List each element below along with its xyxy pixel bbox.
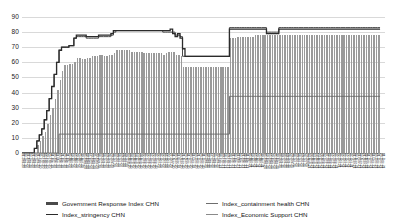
legend-marker-containment-health xyxy=(206,203,218,204)
legend-item-government-response-index[interactable]: Government Response Index CHN xyxy=(46,200,206,207)
chart-container: 0102030405060708090 01-Jan-2006-Jan-2011… xyxy=(0,0,393,224)
line-series-layer xyxy=(22,17,385,153)
line-index-economic-support-chn xyxy=(22,96,380,153)
plot-area xyxy=(22,17,385,153)
y-tick-label-80: 80 xyxy=(12,29,19,36)
legend-marker-economic-support xyxy=(206,214,218,215)
y-tick-label-60: 60 xyxy=(12,59,19,66)
legend-marker-government-response-index xyxy=(46,202,58,205)
legend-item-containment-health[interactable]: Index_containment health CHN xyxy=(206,200,376,207)
legend-label-government-response-index: Government Response Index CHN xyxy=(62,200,159,207)
y-tick-label-70: 70 xyxy=(12,44,19,51)
y-tick-label-10: 10 xyxy=(12,135,19,142)
y-axis: 0102030405060708090 xyxy=(0,17,22,153)
chart-legend: Government Response Index CHN Index_cont… xyxy=(46,198,376,220)
legend-label-containment-health: Index_containment health CHN xyxy=(222,200,309,207)
y-tick-label-40: 40 xyxy=(12,89,19,96)
y-tick-label-0: 0 xyxy=(15,150,19,157)
legend-item-economic-support[interactable]: Index_Economic Support CHN xyxy=(206,211,376,218)
x-axis: 01-Jan-2006-Jan-2011-Jan-2016-Jan-2021-J… xyxy=(22,153,385,195)
legend-item-stringency[interactable]: Index_stringency CHN xyxy=(46,211,206,218)
y-tick-label-90: 90 xyxy=(12,14,19,21)
legend-label-stringency: Index_stringency CHN xyxy=(62,211,125,218)
y-tick-label-20: 20 xyxy=(12,120,19,127)
y-tick-label-30: 30 xyxy=(12,104,19,111)
legend-label-economic-support: Index_Economic Support CHN xyxy=(222,211,308,218)
y-tick-label-50: 50 xyxy=(12,74,19,81)
x-tick-label: 31-Dec-21 xyxy=(381,153,384,168)
legend-marker-stringency xyxy=(46,214,58,215)
